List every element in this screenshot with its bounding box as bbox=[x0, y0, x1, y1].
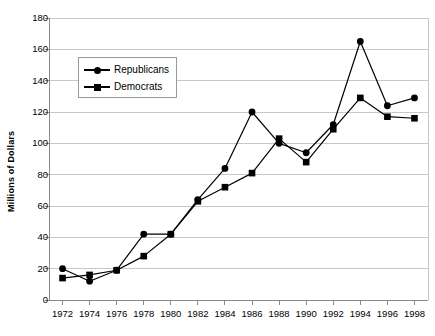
legend-marker-square-icon bbox=[84, 81, 110, 93]
legend-label-democrats: Democrats bbox=[114, 81, 162, 93]
chart-legend: Republicans Democrats bbox=[78, 57, 177, 98]
x-axis-tick-labels: 1972197419761978198019821984198619881990… bbox=[0, 0, 435, 336]
line-chart: Millions of Dollars 02040608010012014016… bbox=[0, 0, 435, 336]
legend-entry-republicans: Republicans bbox=[84, 63, 169, 77]
legend-entry-democrats: Democrats bbox=[84, 80, 162, 94]
x-tick-label: 1998 bbox=[394, 308, 434, 319]
legend-marker-circle-icon bbox=[84, 64, 110, 76]
legend-label-republicans: Republicans bbox=[114, 64, 169, 76]
